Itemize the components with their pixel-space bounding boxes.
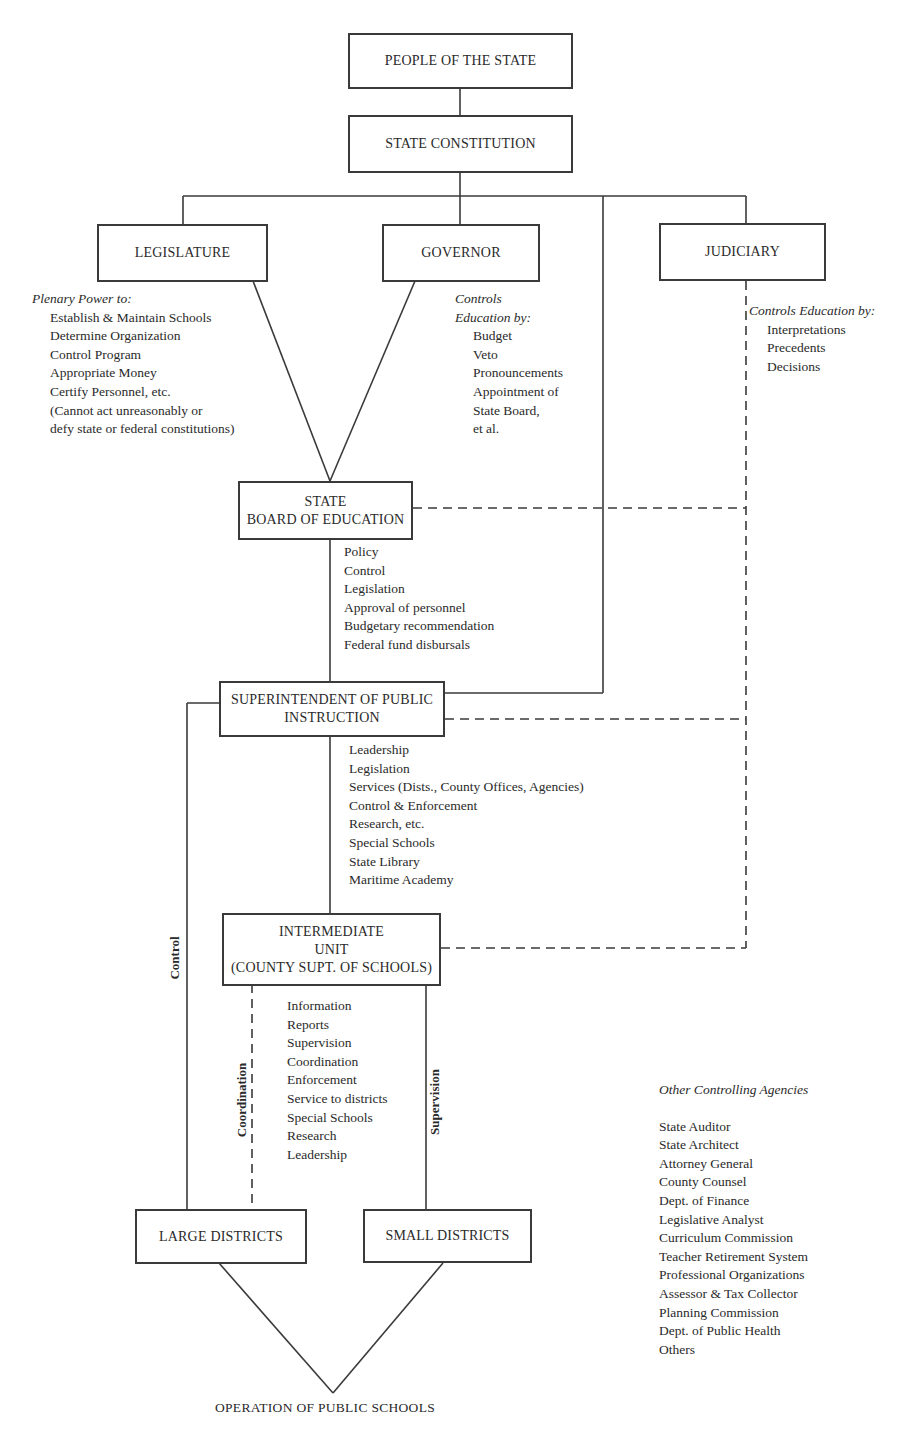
notes-item: defy state or federal constitutions) [32, 420, 234, 439]
node-label-line: BOARD OF EDUCATION [247, 511, 405, 529]
notes-item: Leadership [287, 1146, 387, 1165]
node-label: JUDICIARY [705, 243, 780, 261]
state-board-of-education-node: STATE BOARD OF EDUCATION [238, 481, 413, 540]
notes-item: Information [287, 997, 387, 1016]
state-constitution-node: STATE CONSTITUTION [348, 115, 573, 173]
notes-item: Control & Enforcement [349, 797, 584, 816]
legislature-node: LEGISLATURE [97, 224, 268, 282]
notes-item: Research, etc. [349, 815, 584, 834]
node-label-line: INTERMEDIATE [279, 923, 384, 941]
node-label-line: STATE [305, 493, 347, 511]
node-label: SMALL DISTRICTS [385, 1227, 509, 1245]
supervision-edge-label: Supervision [427, 1067, 443, 1137]
notes-item: Services (Dists., County Offices, Agenci… [349, 778, 584, 797]
node-label-line: INSTRUCTION [284, 709, 380, 727]
agency-item: State Auditor [659, 1118, 808, 1137]
notes-item: Research [287, 1127, 387, 1146]
intermediate-unit-notes: Information Reports Supervision Coordina… [287, 997, 387, 1164]
notes-item: Legislation [344, 580, 494, 599]
notes-item: Veto [455, 346, 563, 365]
superintendent-notes: Leadership Legislation Services (Dists.,… [349, 741, 584, 890]
node-label: LEGISLATURE [135, 244, 231, 262]
notes-item: Approval of personnel [344, 599, 494, 618]
agency-item: Professional Organizations [659, 1266, 808, 1285]
agencies-heading: Other Controlling Agencies [659, 1081, 808, 1100]
notes-item: Control [344, 562, 494, 581]
node-label-line: (COUNTY SUPT. OF SCHOOLS) [231, 959, 432, 977]
notes-item: Policy [344, 543, 494, 562]
notes-heading: Plenary Power to: [32, 291, 132, 306]
notes-item: State Library [349, 853, 584, 872]
agency-item: Dept. of Public Health [659, 1322, 808, 1341]
governor-node: GOVERNOR [382, 224, 540, 282]
notes-item: (Cannot act unreasonably or [32, 402, 234, 421]
intermediate-unit-node: INTERMEDIATE UNIT (COUNTY SUPT. OF SCHOO… [222, 913, 441, 986]
notes-item: Budget [455, 327, 563, 346]
notes-item: Legislation [349, 760, 584, 779]
agency-item: County Counsel [659, 1173, 808, 1192]
node-label: LARGE DISTRICTS [159, 1228, 283, 1246]
node-label: PEOPLE OF THE STATE [385, 52, 536, 70]
control-edge-label: Control [167, 933, 183, 983]
agency-item: Attorney General [659, 1155, 808, 1174]
node-label: STATE CONSTITUTION [385, 135, 536, 153]
notes-item: Coordination [287, 1053, 387, 1072]
notes-item: State Board, [455, 402, 563, 421]
notes-item: Special Schools [349, 834, 584, 853]
other-controlling-agencies: Other Controlling Agencies State Auditor… [659, 1081, 808, 1359]
node-label-line: UNIT [314, 941, 348, 959]
notes-item: Reports [287, 1016, 387, 1035]
state-board-notes: Policy Control Legislation Approval of p… [344, 543, 494, 655]
notes-item: Interpretations [749, 321, 875, 340]
notes-item: Appropriate Money [32, 364, 234, 383]
notes-item: Leadership [349, 741, 584, 760]
coordination-edge-label: Coordination [234, 1060, 250, 1140]
judiciary-node: JUDICIARY [659, 223, 826, 281]
operation-of-public-schools-label: OPERATION OF PUBLIC SCHOOLS [215, 1400, 435, 1416]
notes-item: Appointment of [455, 383, 563, 402]
notes-item: Establish & Maintain Schools [32, 309, 234, 328]
node-label: GOVERNOR [421, 244, 500, 262]
notes-item: Maritime Academy [349, 871, 584, 890]
notes-item: Budgetary recommendation [344, 617, 494, 636]
notes-item: Determine Organization [32, 327, 234, 346]
large-districts-node: LARGE DISTRICTS [135, 1209, 307, 1264]
notes-item: Enforcement [287, 1071, 387, 1090]
agency-item: State Architect [659, 1136, 808, 1155]
agency-item: Planning Commission [659, 1304, 808, 1323]
notes-heading: Education by: [455, 309, 563, 328]
agency-item: Legislative Analyst [659, 1211, 808, 1230]
notes-heading: Controls [455, 290, 563, 309]
node-label-line: SUPERINTENDENT OF PUBLIC [231, 691, 433, 709]
legislature-notes: Plenary Power to: Establish & Maintain S… [32, 290, 234, 439]
superintendent-of-public-instruction-node: SUPERINTENDENT OF PUBLIC INSTRUCTION [219, 681, 445, 737]
notes-item: Special Schools [287, 1109, 387, 1128]
notes-item: Service to districts [287, 1090, 387, 1109]
notes-item: Pronouncements [455, 364, 563, 383]
notes-item: Certify Personnel, etc. [32, 383, 234, 402]
small-districts-node: SMALL DISTRICTS [363, 1209, 532, 1263]
people-of-the-state-node: PEOPLE OF THE STATE [348, 33, 573, 89]
governor-notes: Controls Education by: Budget Veto Prono… [455, 290, 563, 439]
notes-heading: Controls Education by: [749, 303, 875, 318]
judiciary-notes: Controls Education by: Interpretations P… [749, 302, 875, 376]
agency-item: Dept. of Finance [659, 1192, 808, 1211]
notes-item: Control Program [32, 346, 234, 365]
notes-item: Federal fund disbursals [344, 636, 494, 655]
notes-item: Decisions [749, 358, 875, 377]
agency-item: Others [659, 1341, 808, 1360]
notes-item: et al. [455, 420, 563, 439]
agency-item: Assessor & Tax Collector [659, 1285, 808, 1304]
agency-item: Curriculum Commission [659, 1229, 808, 1248]
agency-item: Teacher Retirement System [659, 1248, 808, 1267]
notes-item: Precedents [749, 339, 875, 358]
notes-item: Supervision [287, 1034, 387, 1053]
